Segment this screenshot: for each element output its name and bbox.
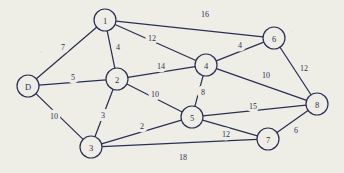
graph-node-2[interactable]: 2 bbox=[106, 68, 128, 90]
edge-weight-label: 3 bbox=[101, 111, 105, 120]
edge-weight-label: 12 bbox=[148, 34, 156, 43]
node-label: 6 bbox=[272, 34, 276, 44]
edge-weight-label: 10 bbox=[262, 71, 270, 80]
edge-weight-label: 15 bbox=[249, 102, 257, 111]
node-label: 1 bbox=[103, 16, 107, 26]
edge-weight-label: 4 bbox=[238, 41, 242, 50]
node-label: 2 bbox=[115, 75, 119, 85]
edge-weight-label: 12 bbox=[300, 64, 308, 73]
edge-weight-label: 16 bbox=[201, 10, 209, 19]
graph-node-3[interactable]: 3 bbox=[80, 136, 102, 158]
edge-weight-label: 12 bbox=[222, 130, 230, 139]
edge-weight-label: 2 bbox=[140, 122, 144, 131]
graph-edge bbox=[102, 139, 257, 146]
graph-node-4[interactable]: 4 bbox=[195, 54, 217, 76]
graph-node-1[interactable]: 1 bbox=[94, 9, 116, 31]
graph-node-8[interactable]: 8 bbox=[306, 93, 328, 115]
edge-weight-label: 18 bbox=[179, 153, 187, 162]
edge-weight-label: 8 bbox=[201, 88, 205, 97]
graph-node-6[interactable]: 6 bbox=[263, 27, 285, 49]
node-label: 7 bbox=[266, 135, 270, 145]
edge-weight-label: 10 bbox=[151, 90, 159, 99]
edge-weight-label: 5 bbox=[71, 73, 75, 82]
edge-weight-label: 10 bbox=[50, 112, 58, 121]
graph-node-D[interactable]: D bbox=[17, 75, 39, 97]
node-label: 5 bbox=[190, 113, 194, 123]
node-label: 8 bbox=[315, 100, 319, 110]
node-label: 3 bbox=[89, 143, 93, 153]
edge-weight-label: 6 bbox=[294, 126, 298, 135]
edge-weight-label: 14 bbox=[157, 62, 165, 71]
edge-weight-label: 7 bbox=[61, 43, 65, 52]
node-label: D bbox=[25, 82, 31, 92]
graph-diagram: 7510412163141021884101215126 D12345678 bbox=[0, 0, 344, 173]
edge-weight-label: 4 bbox=[116, 43, 120, 52]
graph-node-7[interactable]: 7 bbox=[257, 128, 279, 150]
graph-edge bbox=[36, 27, 96, 79]
graph-node-5[interactable]: 5 bbox=[181, 106, 203, 128]
graph-svg: 7510412163141021884101215126 D12345678 bbox=[0, 0, 344, 173]
